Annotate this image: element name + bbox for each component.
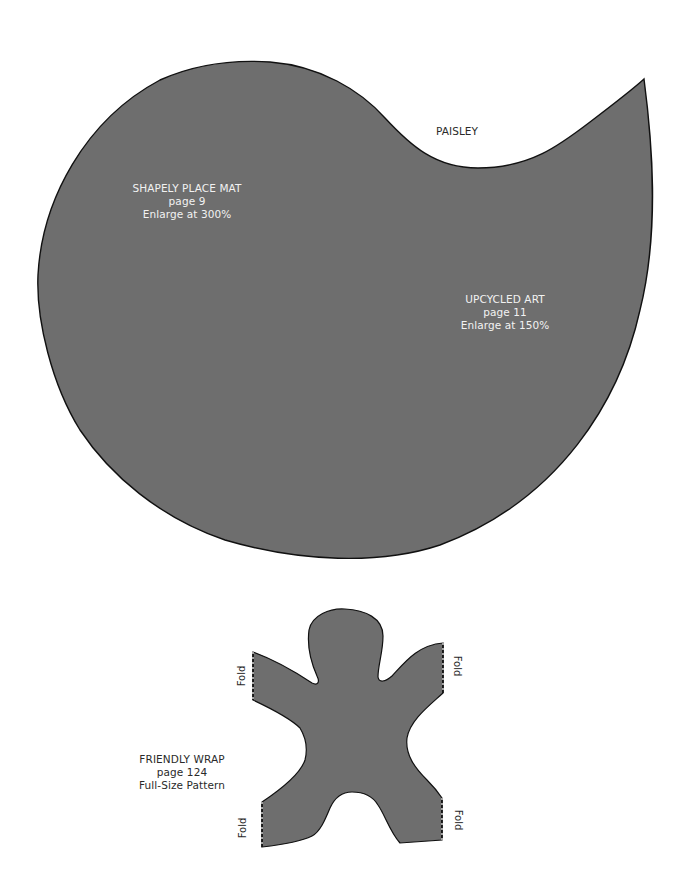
upcycled-art-label: UPCYCLED ART page 11 Enlarge at 150%: [461, 293, 550, 332]
pattern-instruction: Enlarge at 150%: [461, 319, 550, 332]
pattern-title: FRIENDLY WRAP: [139, 753, 225, 766]
paisley-title: PAISLEY: [436, 125, 478, 137]
pattern-page-ref: page 9: [132, 195, 241, 208]
pattern-shapes: [0, 0, 694, 893]
friendly-wrap-label: FRIENDLY WRAP page 124 Full-Size Pattern: [139, 753, 225, 792]
fold-label-right-arm: Fold: [451, 656, 463, 677]
pattern-title: UPCYCLED ART: [461, 293, 550, 306]
pattern-instruction: Full-Size Pattern: [139, 779, 225, 792]
pattern-page-ref: page 124: [139, 766, 225, 779]
paisley-shape: [38, 61, 653, 558]
friendly-wrap-shape: [253, 609, 443, 847]
fold-label-left-leg: Fold: [237, 818, 249, 839]
pattern-title: SHAPELY PLACE MAT: [132, 182, 241, 195]
pattern-page-ref: page 11: [461, 306, 550, 319]
fold-label-left-arm: Fold: [236, 666, 248, 687]
pattern-page: PAISLEY SHAPELY PLACE MAT page 9 Enlarge…: [0, 0, 694, 893]
paisley-label: PAISLEY: [436, 125, 478, 138]
shapely-place-mat-label: SHAPELY PLACE MAT page 9 Enlarge at 300%: [132, 182, 241, 221]
fold-label-right-leg: Fold: [452, 810, 464, 831]
pattern-instruction: Enlarge at 300%: [132, 208, 241, 221]
